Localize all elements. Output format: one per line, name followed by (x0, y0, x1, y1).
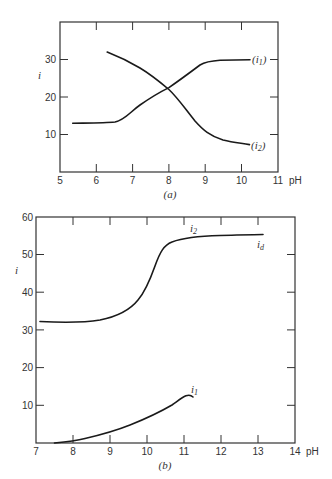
chart-a-series-label-i2: (i2) (251, 139, 266, 153)
chart-a-ytick: 20 (45, 92, 57, 103)
chart-b-ytick: 40 (22, 287, 34, 298)
chart-b-top-ticks (73, 217, 258, 225)
chart-b-xtick: 11 (179, 446, 190, 457)
chart-a-series-i1 (73, 60, 250, 124)
chart-a-series-i2 (107, 52, 249, 145)
chart-a-xlabel: pH (289, 175, 302, 186)
chart-b-series-i1 (55, 395, 194, 443)
chart-a-bottom-ticks (96, 164, 241, 172)
chart-a-ytick: 10 (45, 129, 57, 140)
chart-a-xtick: 7 (130, 175, 136, 186)
chart-a-frame (60, 22, 278, 172)
chart-a-xtick: 8 (166, 175, 172, 186)
chart-b-xtick: 7 (33, 446, 39, 457)
chart-b-xtick: 12 (215, 446, 227, 457)
chart-b-ytick: 60 (22, 212, 34, 223)
chart-b-xtick: 9 (107, 446, 113, 457)
figure: 10 20 30 i 5 6 7 8 9 10 11 pH (a) (i1) (… (0, 0, 332, 479)
chart-b-series-label-i1: i1 (191, 383, 198, 397)
chart-b-ytick: 50 (22, 249, 34, 260)
chart-a-series-label-i1: (i1) (252, 53, 267, 67)
chart-b: 10 20 30 40 50 60 i 7 8 9 10 11 12 13 14… (15, 212, 319, 472)
chart-a-xtick: 6 (94, 175, 100, 186)
chart-a-xtick: 5 (57, 175, 63, 186)
chart-b-series-label-i2: i2 (190, 222, 197, 236)
chart-a-caption: (a) (164, 188, 177, 201)
chart-b-xtick: 10 (141, 446, 153, 457)
chart-b-xtick: 14 (289, 446, 301, 457)
chart-b-caption: (b) (159, 459, 172, 472)
chart-b-xtick: 8 (70, 446, 76, 457)
chart-a-xtick: 11 (273, 175, 284, 186)
chart-a-xtick: 9 (202, 175, 208, 186)
chart-b-ylabel: i (15, 264, 18, 276)
chart-b-series-i2 (40, 235, 263, 323)
chart-a-xtick: 10 (236, 175, 248, 186)
chart-a: 10 20 30 i 5 6 7 8 9 10 11 pH (a) (i1) (… (38, 22, 302, 201)
chart-b-ytick: 10 (22, 400, 34, 411)
chart-a-top-ticks (96, 22, 241, 30)
chart-b-side-ticks (36, 255, 295, 406)
chart-b-ytick: 30 (22, 325, 34, 336)
chart-b-bottom-ticks (73, 435, 258, 443)
chart-b-xlabel: pH (306, 446, 319, 457)
chart-b-xtick: 13 (252, 446, 264, 457)
chart-a-ylabel: i (38, 69, 41, 81)
chart-b-annotation-id: id (257, 238, 265, 252)
chart-a-ytick: 30 (45, 54, 57, 65)
chart-b-ytick: 20 (22, 362, 34, 373)
